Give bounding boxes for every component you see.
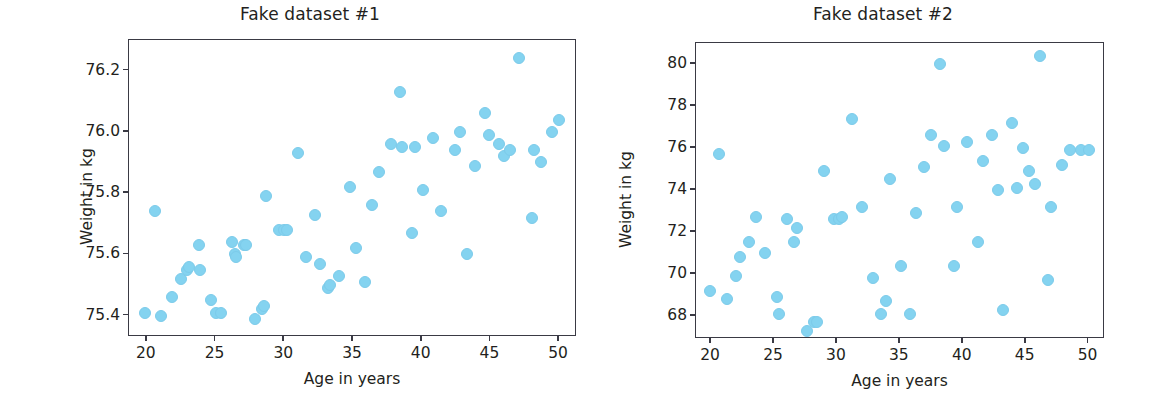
x-axis-label-1: Age in years [304,370,401,388]
scatter-point [417,184,429,196]
scatter-point [918,161,930,173]
y-tick-mark [123,253,128,255]
x-tick-label: 35 [889,346,909,364]
scatter-point [818,165,830,177]
y-tick-label: 74 [643,180,687,198]
scatter-point [884,173,896,185]
y-tick-mark [123,191,128,193]
scatter-point [469,160,481,172]
scatter-point [139,307,151,319]
scatter-point [546,126,558,138]
scatter-point [1023,165,1035,177]
x-tick-mark [420,336,422,341]
y-tick-mark [123,69,128,71]
scatter-points-2 [696,43,1103,337]
scatter-point [324,279,336,291]
figure-canvas: Fake dataset #1 Weight in kg 75.475.675.… [0,0,1151,413]
x-tick-mark [898,338,900,343]
scatter-point [704,285,716,297]
x-tick-label: 40 [952,346,972,364]
scatter-point [910,207,922,219]
x-tick-label: 20 [136,344,156,362]
scatter-point [771,291,783,303]
scatter-point [528,144,540,156]
y-tick-mark [690,230,695,232]
x-tick-label: 50 [1078,346,1098,364]
y-tick-mark [690,272,695,274]
y-tick-label: 76.0 [76,122,120,140]
x-tick-mark [145,336,147,341]
scatter-point [504,144,516,156]
scatter-point [1083,144,1095,156]
scatter-point [1045,201,1057,213]
y-tick-mark [690,146,695,148]
scatter-point [934,58,946,70]
scatter-point [513,52,525,64]
x-tick-label: 40 [411,344,431,362]
chart-title-1: Fake dataset #1 [0,4,600,24]
x-tick-mark [772,338,774,343]
scatter-point [875,308,887,320]
chart-panel-2: Fake dataset #2 Weight in kg 68707274767… [571,0,1151,413]
scatter-point [846,113,858,125]
scatter-point [867,272,879,284]
scatter-point [781,213,793,225]
scatter-point [1042,274,1054,286]
x-tick-label: 35 [342,344,362,362]
scatter-point [895,260,907,272]
scatter-points-1 [129,40,575,335]
y-tick-mark [123,314,128,316]
scatter-point [977,155,989,167]
x-tick-label: 45 [1015,346,1035,364]
scatter-point [193,239,205,251]
scatter-point [215,307,227,319]
y-tick-label: 80 [643,54,687,72]
scatter-point [366,199,378,211]
scatter-point [260,190,272,202]
scatter-point [743,236,755,248]
scatter-point [1064,144,1076,156]
scatter-point [435,205,447,217]
y-tick-label: 68 [643,306,687,324]
scatter-point [344,181,356,193]
scatter-point [359,276,371,288]
scatter-point [1034,50,1046,62]
scatter-point [300,251,312,263]
scatter-point [396,141,408,153]
scatter-point [788,236,800,248]
scatter-point [713,148,725,160]
scatter-point [1011,182,1023,194]
scatter-point [230,251,242,263]
scatter-point [1029,178,1041,190]
y-tick-label: 76 [643,138,687,156]
scatter-point [461,248,473,260]
x-tick-mark [709,338,711,343]
plot-area-2 [695,42,1104,338]
scatter-point [759,247,771,259]
scatter-point [925,129,937,141]
y-tick-label: 72 [643,222,687,240]
scatter-point [836,211,848,223]
x-tick-label: 50 [548,344,568,362]
scatter-point [904,308,916,320]
scatter-point [373,166,385,178]
y-axis-label-2: Weight in kg [617,151,635,248]
scatter-point [258,300,270,312]
y-tick-mark [690,314,695,316]
scatter-point [750,211,762,223]
scatter-point [309,209,321,221]
scatter-point [449,144,461,156]
scatter-point [526,212,538,224]
y-tick-label: 75.4 [76,306,120,324]
y-tick-mark [123,130,128,132]
scatter-point [721,293,733,305]
scatter-point [856,201,868,213]
x-tick-label: 20 [700,346,720,364]
x-tick-mark [835,338,837,343]
scatter-point [314,258,326,270]
scatter-point [951,201,963,213]
plot-area-1 [128,39,576,336]
scatter-point [149,205,161,217]
scatter-point [166,291,178,303]
chart-panel-1: Fake dataset #1 Weight in kg 75.475.675.… [0,0,580,413]
